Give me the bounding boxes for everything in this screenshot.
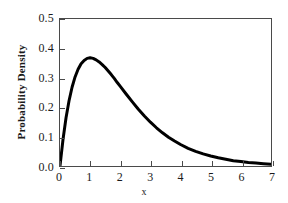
x-tick-mark [243,161,244,166]
x-tick-mark [121,161,122,166]
density-curve [60,19,271,166]
plot-area [59,18,272,167]
y-tick-mark [60,108,65,109]
x-tick-mark [60,161,61,166]
x-tick-label: 1 [77,170,101,184]
x-tick-mark [182,161,183,166]
x-tick-mark [90,161,91,166]
y-tick-mark [60,49,65,50]
y-tick-label: 0.1 [14,131,54,143]
x-tick-label: 5 [199,170,223,184]
x-tick-label: 7 [260,170,284,184]
y-tick-mark [60,168,65,169]
x-tick-mark [212,161,213,166]
x-tick-mark [273,161,274,166]
x-tick-label: 4 [169,170,193,184]
y-tick-label: 0.2 [14,101,54,113]
y-tick-label: 0.3 [14,72,54,84]
chart-figure: Probability Density 0.00.10.20.30.40.5 0… [0,0,288,203]
y-tick-mark [60,79,65,80]
x-tick-mark [151,161,152,166]
y-tick-mark [60,19,65,20]
x-tick-label: 6 [230,170,254,184]
x-tick-label: 3 [138,170,162,184]
x-tick-label: 0 [47,170,71,184]
y-tick-mark [60,138,65,139]
y-axis-title: Probability Density [15,17,27,167]
y-tick-label: 0.4 [14,42,54,54]
x-tick-label: 2 [108,170,132,184]
x-axis-title: x [0,186,288,198]
y-tick-label: 0.5 [14,12,54,24]
density-curve-line [60,58,271,166]
